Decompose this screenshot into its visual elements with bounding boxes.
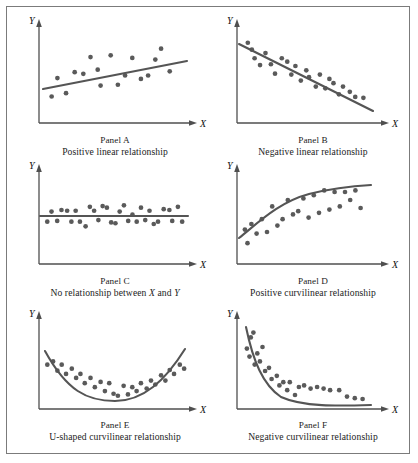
data-point <box>55 219 60 224</box>
panel-f-subtitle: Negative curvilinear relationship <box>213 431 413 442</box>
panel-c-x-label: X <box>199 259 207 270</box>
panel-c-plot: Y X <box>15 160 215 280</box>
panel-f-y-label: Y <box>227 309 234 319</box>
data-point <box>143 218 148 223</box>
data-point <box>153 57 158 62</box>
data-point <box>172 372 177 377</box>
data-point <box>107 381 112 386</box>
data-point <box>69 219 74 224</box>
data-point <box>245 241 250 246</box>
data-point <box>273 71 278 76</box>
data-point <box>258 63 263 68</box>
data-point <box>122 203 127 208</box>
data-point <box>304 68 309 73</box>
panel-d: Y X Panel D Positive curvilinear relatio… <box>213 160 413 310</box>
panel-d-axes <box>234 164 389 267</box>
data-point <box>254 231 259 236</box>
panel-b-axes <box>234 19 389 126</box>
data-point <box>353 188 358 193</box>
data-point <box>353 95 358 100</box>
data-point <box>255 351 260 356</box>
data-point <box>170 219 175 224</box>
data-point <box>134 219 139 224</box>
data-point <box>258 359 263 364</box>
data-point <box>130 56 135 61</box>
data-point <box>126 392 131 397</box>
data-point <box>297 385 302 390</box>
data-point <box>245 346 250 351</box>
panel-c: Y X Panel C No relationship between X an… <box>15 160 215 310</box>
data-point <box>293 393 298 398</box>
data-point <box>331 81 336 86</box>
data-point <box>182 366 187 371</box>
data-point <box>281 380 286 385</box>
panel-a: Y X Panel A Positive linear relationship <box>15 11 215 161</box>
data-point <box>341 84 346 89</box>
data-point <box>139 381 144 386</box>
data-point <box>313 84 318 89</box>
data-point <box>92 385 97 390</box>
data-point <box>159 46 164 51</box>
data-point <box>177 362 182 367</box>
data-point <box>109 220 114 225</box>
panel-c-subtitle: No relationship between X and Y <box>15 287 215 298</box>
panel-f-plot: Y X <box>213 309 413 424</box>
data-point <box>149 378 154 383</box>
data-point <box>277 383 282 388</box>
data-point <box>358 206 363 211</box>
data-point <box>96 218 101 223</box>
panel-e-x-label: X <box>199 404 207 415</box>
data-point <box>59 362 64 367</box>
data-point <box>285 388 290 393</box>
data-point <box>296 209 301 214</box>
data-point <box>275 223 280 228</box>
panel-c-y-label: Y <box>29 160 36 171</box>
data-point <box>274 373 279 378</box>
panel-e-points <box>45 359 186 398</box>
panel-f-axes <box>234 311 389 412</box>
data-point <box>348 198 353 203</box>
data-point <box>337 388 342 393</box>
panel-a-points <box>49 46 172 99</box>
data-point <box>251 330 256 335</box>
data-point <box>92 208 97 213</box>
data-point <box>308 386 313 391</box>
panel-e: Y X Panel E U-shaped curvilinear relatio… <box>15 309 215 459</box>
figure-frame: Y X Panel A Positive linear relationship… <box>6 6 410 454</box>
data-point <box>347 89 352 94</box>
data-point <box>293 64 298 69</box>
data-point <box>72 70 77 75</box>
data-point <box>328 388 333 393</box>
data-point <box>82 381 87 386</box>
data-point <box>147 208 152 213</box>
data-point <box>103 389 108 394</box>
panel-a-plot: Y X <box>15 11 215 139</box>
panel-b-subtitle: Negative linear relationship <box>213 146 413 157</box>
data-point <box>146 73 151 78</box>
panel-a-subtitle: Positive linear relationship <box>15 146 215 157</box>
data-point <box>332 190 337 195</box>
data-point <box>117 209 122 214</box>
panel-b-points <box>245 40 365 100</box>
data-point <box>65 208 70 213</box>
panel-a-fit-line <box>43 61 187 89</box>
panel-e-plot: Y X <box>15 309 215 424</box>
data-point <box>270 204 275 209</box>
data-point <box>321 386 326 391</box>
data-point <box>98 380 103 385</box>
data-point <box>269 62 274 67</box>
data-point <box>126 219 131 224</box>
panel-a-y-label: Y <box>29 15 36 26</box>
panel-d-fit-curve <box>239 185 371 238</box>
panel-a-axes <box>36 19 197 126</box>
data-point <box>134 389 139 394</box>
data-point <box>176 205 181 210</box>
data-point <box>252 56 257 61</box>
panel-e-y-label: Y <box>29 309 36 319</box>
data-point <box>327 77 332 82</box>
data-point <box>59 208 64 213</box>
data-point <box>245 40 250 45</box>
data-point <box>337 204 342 209</box>
data-point <box>45 362 50 367</box>
data-point <box>263 51 268 56</box>
